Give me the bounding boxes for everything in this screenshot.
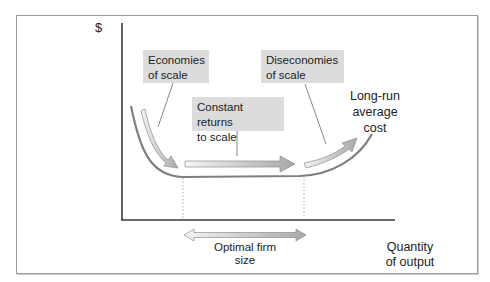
constant-returns-callout: Constant returns to scale [192,97,284,131]
callout-line: of scale [266,68,339,83]
callout-line: to scale [197,130,279,145]
y-axis-label: $ [95,20,102,35]
diseconomies-leader [305,84,326,144]
x-axis-label-line: Quantity [370,240,450,255]
lrac-label-line: average [340,104,410,120]
optimal-firm-size-label: Optimal firm size [195,241,295,267]
range-label-line: Optimal firm [195,241,295,254]
callout-line: Diseconomies [266,53,339,68]
diseconomies-of-scale-callout: Diseconomies of scale [261,50,344,83]
economies-of-scale-callout: Economies of scale [143,50,209,83]
economies-arrow [141,109,178,168]
lrac-label-line: cost [340,120,410,136]
economies-leader [158,83,173,127]
optimal-size-double-arrow [184,229,306,241]
x-axis-label: Quantity of output [370,240,450,270]
lrac-label: Long-run average cost [340,88,410,136]
x-axis-label-line: of output [370,255,450,270]
callout-line: Constant returns [197,100,279,130]
callout-line: Economies [148,53,204,68]
constant-returns-arrow [185,156,295,172]
range-label-line: size [195,254,295,267]
diseconomies-arrow [304,138,357,168]
callout-line: of scale [148,68,204,83]
lrac-label-line: Long-run [340,88,410,104]
